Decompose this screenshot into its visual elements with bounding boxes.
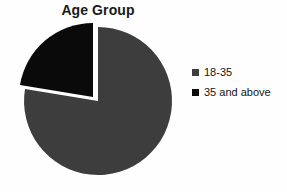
- chart-legend: 18-35 35 and above: [192, 62, 287, 102]
- legend-item-35-and-above[interactable]: 35 and above: [192, 82, 287, 102]
- pie-svg: [0, 20, 192, 192]
- legend-label-35-and-above: 35 and above: [204, 86, 271, 98]
- legend-item-18-35[interactable]: 18-35: [192, 62, 287, 82]
- pie-chart-figure: Age Group 18-35 35 and above: [0, 0, 287, 192]
- legend-swatch-18-35: [192, 69, 199, 76]
- legend-label-18-35: 18-35: [204, 66, 232, 78]
- legend-swatch-35-and-above: [192, 89, 199, 96]
- chart-title: Age Group: [0, 2, 196, 18]
- pie-plot-area: [0, 20, 192, 192]
- pie-slice-35-and-above[interactable]: [20, 23, 93, 97]
